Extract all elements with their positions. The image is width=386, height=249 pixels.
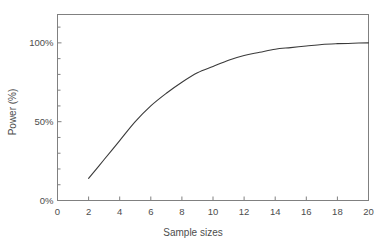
x-tick-label: 14 <box>270 207 281 217</box>
x-tick-label: 20 <box>363 207 374 217</box>
x-tick-label: 10 <box>208 207 219 217</box>
x-tick-label: 2 <box>86 207 91 217</box>
y-tick-label: 100% <box>29 38 53 48</box>
x-tick-label: 8 <box>179 207 184 217</box>
y-tick-label: 50% <box>34 117 53 127</box>
x-tick-label: 0 <box>55 207 60 217</box>
y-tick-label: 0% <box>40 196 54 206</box>
x-tick-label: 18 <box>332 207 343 217</box>
y-axis-title: Power (%) <box>8 62 18 162</box>
x-tick-label: 12 <box>239 207 250 217</box>
x-axis-title: Sample sizes <box>0 228 386 238</box>
x-tick-label: 6 <box>148 207 153 217</box>
x-tick-label: 4 <box>117 207 122 217</box>
x-tick-label: 16 <box>301 207 312 217</box>
power-curve-figure: 02468101214161820 0%50%100% Sample sizes… <box>0 0 386 249</box>
